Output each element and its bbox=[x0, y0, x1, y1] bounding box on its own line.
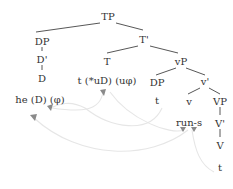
node-vp-small: vP bbox=[174, 56, 188, 67]
node-dp-trace: DP bbox=[150, 77, 165, 88]
arrow-v-trace-to-runs bbox=[192, 130, 214, 172]
leaf-t-features: t (*uD) (uφ) bbox=[78, 75, 137, 86]
arrow-head-icon bbox=[100, 89, 106, 96]
tree-nodes: TP DP D' D he (D) (φ) T' T t (*uD) (uφ) … bbox=[15, 11, 227, 173]
node-d-bar: D' bbox=[37, 54, 48, 65]
node-tp: TP bbox=[101, 11, 115, 22]
node-dp-subject: DP bbox=[35, 36, 50, 47]
leaf-runs: run-s bbox=[176, 117, 202, 128]
node-v-bar: V' bbox=[214, 118, 225, 129]
node-v: V bbox=[215, 140, 224, 151]
node-v-small: v bbox=[185, 96, 192, 107]
leaf-he: he (D) (φ) bbox=[15, 94, 64, 105]
arrow-dp-trace-to-he bbox=[50, 103, 162, 125]
leaf-v-trace: t bbox=[218, 162, 222, 173]
arrow-runs-to-he bbox=[34, 118, 188, 151]
syntax-tree: TP DP D' D he (D) (φ) T' T t (*uD) (uφ) … bbox=[0, 0, 233, 189]
node-t-bar: T' bbox=[139, 34, 148, 45]
leaf-dp-trace: t bbox=[155, 95, 159, 106]
node-d: D bbox=[38, 73, 46, 84]
node-v-bar-small: v' bbox=[200, 76, 209, 87]
node-vp: VP bbox=[212, 96, 227, 107]
node-t: T bbox=[104, 56, 111, 67]
